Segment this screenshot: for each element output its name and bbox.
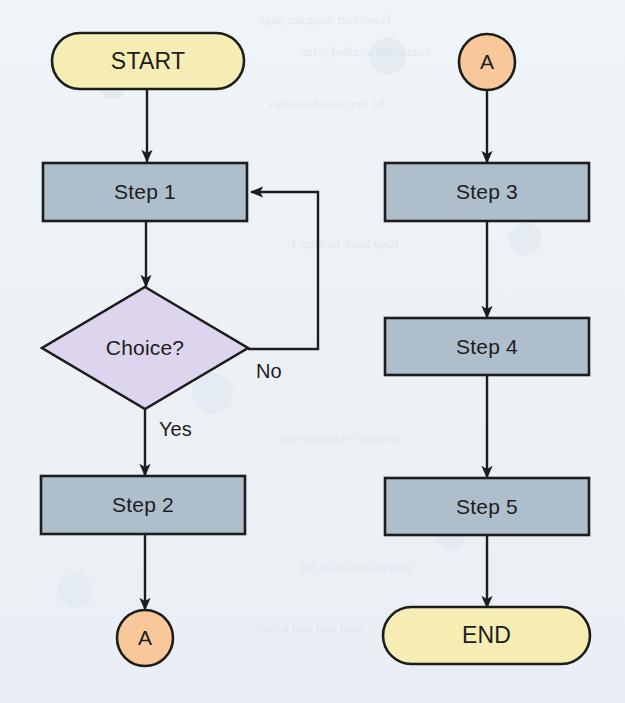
node-connector-a-out[interactable] — [117, 610, 173, 666]
node-start[interactable] — [52, 33, 244, 89]
node-choice[interactable] — [42, 287, 248, 409]
node-end[interactable] — [383, 607, 590, 664]
flowchart-svg — [0, 0, 625, 703]
node-connector-a-in[interactable] — [459, 34, 515, 90]
node-step5[interactable] — [385, 478, 589, 535]
node-step3[interactable] — [385, 163, 589, 221]
node-step2[interactable] — [41, 476, 245, 534]
node-step1[interactable] — [43, 163, 247, 221]
node-step4[interactable] — [385, 318, 589, 375]
edge-choice-step1-loop — [248, 192, 318, 349]
flowchart-canvas: flowchart diagram page connector symbol … — [0, 0, 625, 703]
